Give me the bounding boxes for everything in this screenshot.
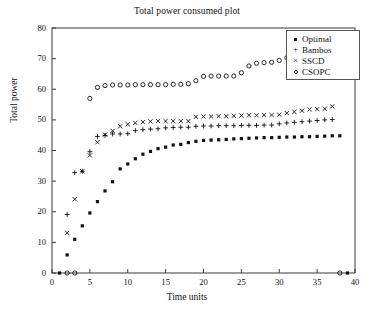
x-tick-label: 35 [305,278,329,287]
x-tick-label: 15 [154,278,178,287]
y-tick-label: 40 [22,146,46,155]
series-bambos [65,117,335,217]
data-points [58,49,349,275]
y-tick-label: 0 [22,269,46,278]
legend-item-csopc[interactable]: CSOPC [290,66,355,77]
y-tick-label: 20 [22,207,46,216]
series-csopc [65,49,342,275]
filled-square-icon [290,35,301,43]
legend-item-sscd[interactable]: ×SSCD [290,55,355,66]
legend-item-optimal[interactable]: Optimal [290,33,355,44]
x-tick-label: 5 [78,278,102,287]
legend-item-label: Bambos [301,45,332,55]
legend-item-label: CSOPC [301,67,331,77]
legend-item-label: Optimal [301,34,332,44]
y-tick-label: 30 [22,177,46,186]
open-circle-icon [290,68,301,76]
y-tick-label: 50 [22,115,46,124]
x-tick-label: 0 [40,278,64,287]
legend-item-label: SSCD [301,56,325,66]
x-tick-label: 25 [229,278,253,287]
y-tick-label: 10 [22,238,46,247]
legend-item-bambos[interactable]: +Bambos [290,44,355,55]
x-tick-label: 40 [343,278,367,287]
plus-icon: + [290,45,301,54]
y-tick-label: 80 [22,24,46,33]
chart-legend: Optimal+Bambos×SSCDCSOPC [286,30,360,80]
cross-icon: × [290,56,301,65]
x-tick-label: 10 [116,278,140,287]
x-tick-label: 30 [267,278,291,287]
y-tick-label: 60 [22,85,46,94]
chart-figure: Total power consumed plot Total power Ti… [0,0,374,315]
x-tick-label: 20 [192,278,216,287]
y-tick-label: 70 [22,54,46,63]
series-optimal [58,134,349,274]
